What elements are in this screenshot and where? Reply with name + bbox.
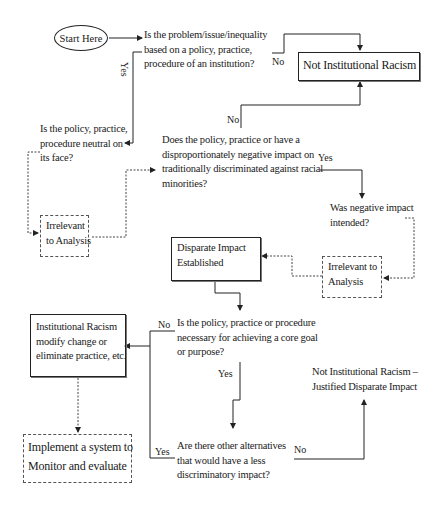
edge-label-q6-yes: Yes (155, 446, 170, 458)
question-institution-policy: Is the problem/issue/inequality based on… (144, 28, 267, 72)
start-node: Start Here (54, 25, 108, 51)
start-label: Start Here (60, 33, 103, 44)
edge-label-q5-yes: Yes (218, 368, 233, 380)
edge-label-q3-no: No (227, 114, 239, 126)
question-necessary-core-goal: Is the policy, practice or procedure nec… (177, 316, 318, 360)
edge-label-q1-yes: Yes (118, 62, 130, 77)
outcome-justified-disparate-impact: Not Institutional Racism – Justified Dis… (312, 365, 418, 394)
question-disproportionate-impact: Does the policy, practice or have a disp… (162, 133, 323, 191)
outcome-implement-monitor: Implement a system to Monitor and evalua… (23, 434, 132, 483)
outcome-irrelevant-analysis-2: Irrelevant to Analysis (322, 256, 382, 298)
edge-label-q6-no: No (294, 444, 306, 456)
edge-label-q1-no: No (272, 56, 284, 68)
question-impact-intended: Was negative impact intended? (330, 201, 413, 230)
edge-label-q3-yes: Yes (318, 152, 333, 164)
question-alternatives: Are there other alternatives that would … (177, 439, 286, 483)
edge-label-q5-no: No (158, 319, 170, 331)
question-neutral-on-face: Is the policy, practice, procedure neutr… (40, 122, 128, 166)
outcome-institutional-racism: Institutional Racism modify change or el… (30, 314, 126, 377)
outcome-not-institutional-racism: Not Institutional Racism (298, 52, 420, 81)
outcome-irrelevant-analysis-1: Irrelevant to Analysis (40, 215, 89, 257)
outcome-disparate-impact-established: Disparate Impact Established (171, 237, 261, 281)
